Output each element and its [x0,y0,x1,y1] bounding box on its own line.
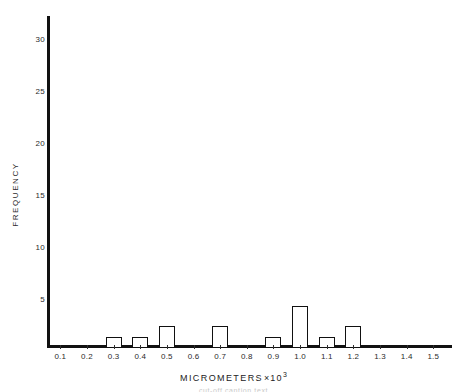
y-tick-label: 10 [23,244,45,252]
x-tick-label: 0.1 [47,352,73,361]
x-tick-mark [300,345,301,349]
y-tick-label: 25 [23,88,45,96]
x-tick-label: 0.6 [181,352,207,361]
x-axis-title-text: MICROMETERS [180,373,263,383]
x-tick-mark [353,345,354,349]
x-tick-label: 1.1 [314,352,340,361]
x-tick-label: 0.7 [207,352,233,361]
x-tick-label: 0.3 [101,352,127,361]
x-tick-label: 1.3 [367,352,393,361]
x-tick-mark [167,345,168,349]
x-tick-mark [380,345,381,349]
x-tick-label: 0.2 [74,352,100,361]
y-tick-label: 20 [23,140,45,148]
x-tick-mark [60,345,61,349]
x-axis-exponent-base: 10 [270,373,283,383]
x-tick-mark [114,345,115,349]
y-tick-label: 30 [23,36,45,44]
x-tick-label: 1.4 [394,352,420,361]
y-tick-label: 15 [23,192,45,200]
x-tick-mark [273,345,274,349]
x-tick-label: 1.5 [420,352,446,361]
x-tick-label: 1.0 [287,352,313,361]
y-tick-label: 5 [23,296,45,304]
figure-caption: cut-off caption text [0,387,467,392]
x-tick-label: 0.4 [127,352,153,361]
x-axis-title: MICROMETERS×103 [0,371,467,383]
x-tick-mark [327,345,328,349]
x-axis-exponent: 3 [283,371,287,378]
histogram-bar [212,326,228,347]
x-tick-mark [194,345,195,349]
x-tick-mark [220,345,221,349]
histogram-bar [159,326,175,347]
x-tick-mark [247,345,248,349]
x-tick-label: 0.8 [234,352,260,361]
plot-area [47,16,452,347]
y-axis-tick-labels: 5 10 15 20 25 30 [0,0,45,392]
histogram-figure: FREQUENCY 5 10 15 20 25 30 0.10.20.30.40… [0,0,467,392]
histogram-bar [292,306,308,347]
x-tick-label: 1.2 [340,352,366,361]
x-tick-mark [140,345,141,349]
x-tick-mark [433,345,434,349]
x-tick-mark [407,345,408,349]
x-tick-label: 0.9 [260,352,286,361]
x-tick-mark [87,345,88,349]
x-tick-label: 0.5 [154,352,180,361]
histogram-bar [345,326,361,347]
